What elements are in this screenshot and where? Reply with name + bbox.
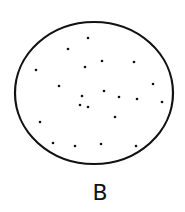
dot	[133, 61, 136, 64]
dot	[58, 85, 61, 88]
dot	[52, 142, 55, 145]
dot	[152, 83, 155, 86]
dot	[87, 37, 90, 40]
dot	[67, 48, 70, 51]
dot	[100, 143, 103, 146]
dot	[39, 121, 42, 124]
dot	[118, 96, 121, 99]
dot	[74, 145, 77, 148]
circle-outline	[15, 22, 173, 164]
dots-group	[35, 37, 164, 148]
dot	[114, 116, 117, 119]
dot	[35, 69, 38, 72]
dot	[136, 98, 139, 101]
dot	[87, 106, 90, 109]
dot	[84, 66, 87, 69]
dot	[103, 90, 106, 93]
dot	[101, 60, 104, 63]
diagram-label: B	[92, 180, 107, 205]
dot	[79, 104, 82, 107]
dot	[161, 101, 164, 104]
diagram-canvas: B	[0, 0, 185, 212]
dot	[81, 95, 84, 98]
dot	[135, 145, 138, 148]
